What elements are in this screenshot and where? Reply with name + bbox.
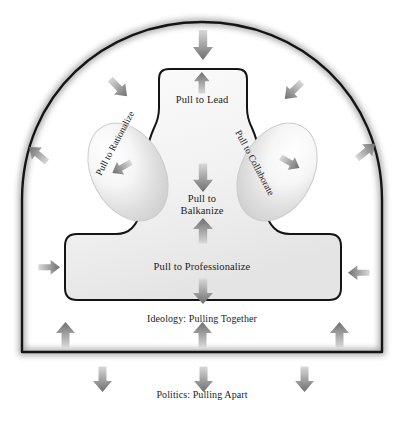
balkanize-line-2: Balkanize xyxy=(0,205,404,217)
caption-ideology-pulling-together: Ideology: Pulling Together xyxy=(0,313,404,324)
arrow-base-up-left-icon xyxy=(56,322,75,348)
node-label-pull-to-balkanize: Pull to Balkanize xyxy=(0,193,404,217)
balkanize-line-1: Pull to xyxy=(188,193,216,204)
arrow-base-up-right-icon xyxy=(330,322,349,348)
arrow-top-inward-icon xyxy=(193,30,213,60)
node-label-pull-to-lead: Pull to Lead xyxy=(0,94,404,106)
node-label-pull-to-professionalize: Pull to Professionalize xyxy=(0,261,404,273)
diagram-canvas: Pull to Lead Pull to Balkanize Pull to P… xyxy=(0,0,404,421)
caption-politics-pulling-apart: Politics: Pulling Apart xyxy=(0,389,404,400)
arrow-base-up-center-icon xyxy=(193,322,212,348)
